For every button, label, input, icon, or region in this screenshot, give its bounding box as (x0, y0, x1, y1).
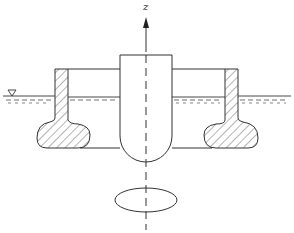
left-pontoon (37, 69, 90, 148)
z-axis-label: z (142, 1, 149, 12)
z-axis-arrow-icon (143, 17, 149, 52)
water-level-icon (8, 90, 16, 96)
right-pontoon (204, 69, 258, 148)
diagram-canvas: z (0, 0, 294, 233)
